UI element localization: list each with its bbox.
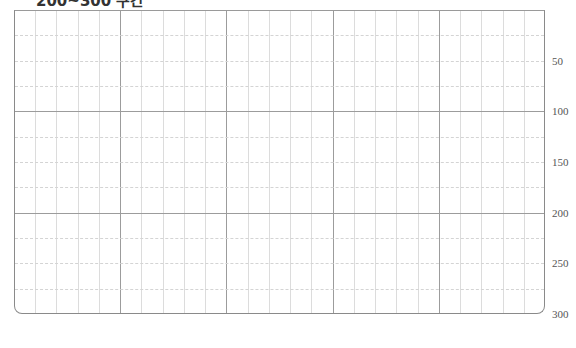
grid-frame — [14, 10, 545, 314]
grid-major-hline — [15, 213, 544, 214]
y-axis-label: 50 — [552, 55, 563, 67]
grid-minor-hline — [15, 263, 544, 264]
y-axis-label: 300 — [552, 308, 569, 320]
grid-minor-hline — [15, 61, 544, 62]
grid-minor-hline — [15, 289, 544, 290]
grid-minor-hline — [15, 137, 544, 138]
grid-minor-hline — [15, 238, 544, 239]
y-axis-label: 100 — [552, 105, 569, 117]
y-axis-label: 150 — [552, 156, 569, 168]
y-axis-label: 250 — [552, 257, 569, 269]
y-axis-label: 200 — [552, 207, 569, 219]
grid-minor-hline — [15, 187, 544, 188]
grid-minor-hline — [15, 35, 544, 36]
grid-major-hline — [15, 111, 544, 112]
grid-minor-hline — [15, 162, 544, 163]
grid-minor-hline — [15, 86, 544, 87]
grid-title: 200~300 구간 — [36, 0, 144, 10]
